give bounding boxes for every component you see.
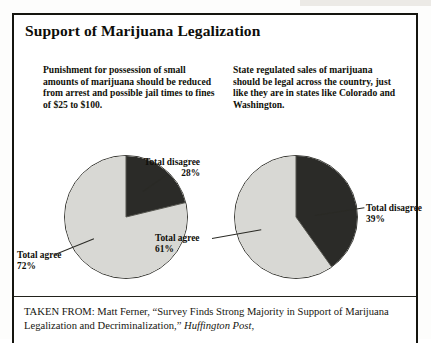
pie-right-disagree-name: Total disagree bbox=[366, 203, 422, 213]
source-divider bbox=[14, 296, 416, 297]
pie-left-agree-callout: Total agree 72% bbox=[17, 250, 77, 272]
figure-title: Support of Marijuana Legalization bbox=[25, 22, 260, 40]
pie-right-disagree-value: 39% bbox=[366, 214, 385, 224]
source-suffix: , bbox=[251, 320, 254, 331]
pie-right-graphic bbox=[234, 155, 358, 279]
page-top-band bbox=[300, 0, 431, 6]
source-publication: Huffington Post bbox=[184, 320, 251, 331]
source-citation: TAKEN FROM: Matt Ferner, “Survey Finds S… bbox=[24, 305, 408, 332]
pie-right-agree-value: 61% bbox=[155, 244, 174, 254]
pie-right-disagree-callout: Total disagree 39% bbox=[366, 203, 428, 225]
pie-left-disagree-value: 28% bbox=[181, 168, 200, 178]
statement-left: Punishment for possession of small amoun… bbox=[43, 64, 218, 110]
figure-frame bbox=[12, 13, 418, 343]
statement-right: State regulated sales of marijuana shoul… bbox=[233, 64, 398, 110]
pie-right-svg bbox=[235, 156, 357, 278]
pie-left-disagree-name: Total disagree bbox=[144, 157, 200, 167]
pie-left-agree-value: 72% bbox=[17, 261, 36, 271]
pie-right-agree-callout: Total agree 61% bbox=[155, 233, 213, 255]
pie-right-agree-name: Total agree bbox=[155, 233, 200, 243]
